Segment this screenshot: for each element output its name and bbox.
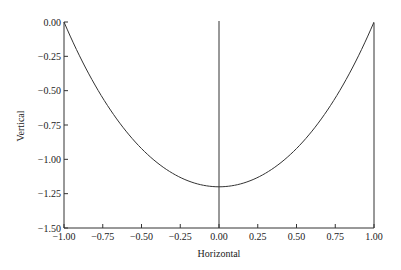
x-tick-label: 0.25 (249, 231, 267, 242)
y-tick-label: −1.50 (38, 223, 61, 234)
y-tick-label: 0.00 (44, 17, 62, 28)
x-tick-labels: −1.00−0.75−0.50−0.250.000.250.500.751.00 (52, 231, 382, 242)
y-tick-label: −0.25 (38, 51, 61, 62)
y-axis-label: Vertical (15, 110, 26, 141)
x-tick-label: 0.75 (327, 231, 345, 242)
x-tick-label: 0.50 (288, 231, 306, 242)
y-tick-label: −1.25 (38, 188, 61, 199)
x-tick-label: −0.75 (91, 231, 114, 242)
plot-area (64, 21, 374, 228)
x-tick-label: 0.00 (210, 231, 228, 242)
y-tick-labels: 0.00−0.25−0.50−0.75−1.00−1.25−1.50 (38, 17, 61, 234)
x-tick-label: −0.50 (130, 231, 153, 242)
x-tick-label: −0.25 (169, 231, 192, 242)
chart: −1.00−0.75−0.50−0.250.000.250.500.751.00… (0, 0, 401, 270)
y-tick-label: −0.50 (38, 85, 61, 96)
x-axis-label: Horizontal (198, 248, 241, 259)
y-tick-label: −0.75 (38, 120, 61, 131)
x-tick-label: 1.00 (365, 231, 383, 242)
y-tick-label: −1.00 (38, 154, 61, 165)
